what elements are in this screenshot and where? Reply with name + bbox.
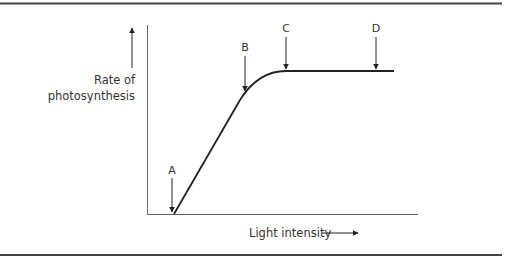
photosynthesis-diagram: Rate of photosynthesis Light intensity A…: [0, 0, 508, 257]
rate-curve: [174, 71, 394, 214]
x-axis-label: Light intensity: [249, 226, 331, 240]
y-axis-label-line1: Rate of: [94, 73, 136, 87]
point-label-a: A: [168, 164, 176, 177]
point-label-c: C: [282, 22, 290, 35]
point-label-b: B: [241, 41, 249, 54]
point-label-d: D: [372, 22, 380, 35]
y-axis-label-line2: photosynthesis: [48, 89, 135, 103]
